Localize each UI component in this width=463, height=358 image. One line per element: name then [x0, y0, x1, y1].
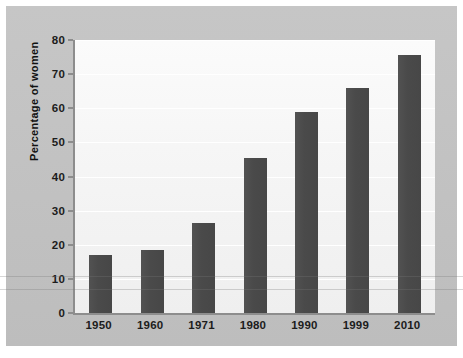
chart-screenshot: Percentage of women 01020304050607080 19…	[0, 0, 463, 358]
bar-chart-figure: Percentage of women 01020304050607080 19…	[6, 6, 457, 346]
plot-area	[73, 40, 435, 315]
y-axis-tick-label: 0	[58, 307, 65, 319]
x-axis-tick-label: 1990	[291, 319, 317, 331]
x-axis-tick-label: 1980	[240, 319, 266, 331]
y-axis-tick-label: 20	[52, 239, 65, 251]
x-axis-tick-label: 1950	[86, 319, 112, 331]
y-axis-tick-label: 80	[52, 34, 65, 46]
bar	[244, 158, 267, 313]
bar	[295, 112, 318, 313]
y-axis-tick-label: 60	[52, 102, 65, 114]
bar	[89, 255, 112, 313]
bar	[192, 223, 215, 313]
x-axis-tick-label: 1960	[137, 319, 163, 331]
x-axis-tick-label: 2010	[394, 319, 420, 331]
y-axis: 01020304050607080	[6, 6, 73, 346]
bar	[346, 88, 369, 313]
bars-group	[75, 40, 435, 313]
y-axis-tick-label: 70	[52, 68, 65, 80]
y-axis-tick-label: 10	[52, 273, 65, 285]
y-axis-tick-label: 40	[52, 171, 65, 183]
bar	[398, 55, 421, 313]
y-axis-tick-label: 30	[52, 205, 65, 217]
x-axis-tick-label: 1971	[188, 319, 214, 331]
x-axis: 1950196019711980199019992010	[73, 317, 435, 341]
bar	[141, 250, 164, 313]
y-axis-tick-label: 50	[52, 136, 65, 148]
x-axis-tick-label: 1999	[343, 319, 369, 331]
